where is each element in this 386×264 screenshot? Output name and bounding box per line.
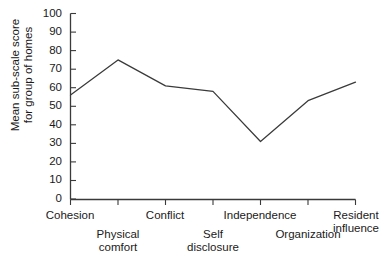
x-tick-label-independence: Independence [224, 209, 297, 222]
x-tick-label-resident-influence: Resident influence [333, 209, 379, 234]
data-series-line [71, 60, 356, 142]
x-tick-label-cohesion: Cohesion [46, 209, 95, 222]
x-tick-label-self-disclosure: Self disclosure [187, 228, 239, 253]
plot-area [0, 0, 386, 264]
x-axis-ticks [71, 200, 356, 206]
x-tick-label-physical-comfort: Physical comfort [97, 228, 140, 253]
x-tick-label-conflict: Conflict [146, 209, 184, 222]
x-tick-label-organization: Organization [275, 228, 340, 241]
line-chart: Mean sub-scale score for group of homes … [0, 0, 386, 264]
y-axis-ticks [71, 14, 77, 200]
